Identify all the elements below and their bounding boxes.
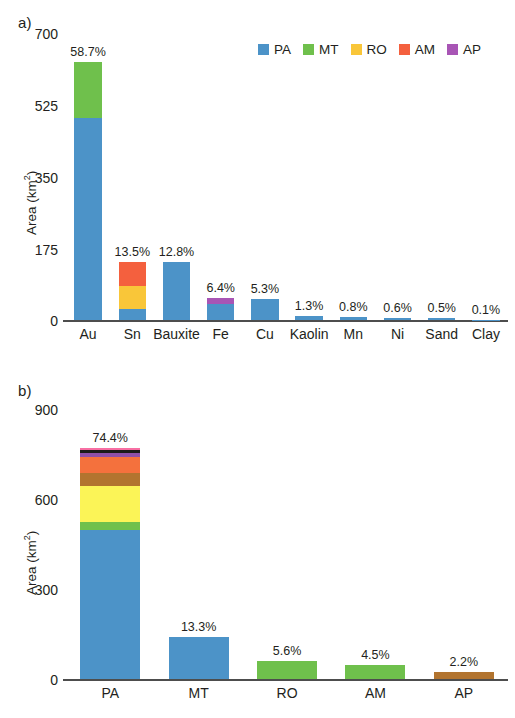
bar-segment-sn-am[interactable]: [119, 262, 146, 285]
bar-slot-fe[interactable]: 6.4%Fe: [199, 34, 243, 320]
x-axis-line-a: [66, 320, 508, 322]
bar-group-b: 74.4%PA13.3%MT5.6%RO4.5%AM2.2%AP: [66, 410, 508, 679]
x-axis-label-sand: Sand: [425, 326, 458, 342]
bar-group-a: 58.7%Au13.5%Sn12.8%Bauxite6.4%Fe5.3%Cu1.…: [66, 34, 508, 320]
bar-value-label-sn: 13.5%: [115, 245, 150, 259]
bar-value-label-bauxite: 12.8%: [159, 245, 194, 259]
bar-value-label-clay: 0.1%: [472, 303, 501, 317]
y-tick-label-a-350: 350: [35, 170, 58, 186]
y-axis-a: 700 525 350 175 0: [0, 0, 58, 360]
legend-item-ap[interactable]: AP: [447, 42, 481, 57]
bar-au[interactable]: [74, 62, 101, 320]
bar-segment-ro-sn[interactable]: [257, 661, 317, 679]
bar-sn[interactable]: [119, 262, 146, 320]
y-axis-b: 900 600 300 0: [0, 370, 58, 718]
bar-segment-pa-bauxite[interactable]: [80, 486, 140, 522]
x-axis-label-ro: RO: [277, 685, 298, 701]
bar-segment-pa-sn[interactable]: [80, 522, 140, 530]
bar-slot-mt[interactable]: 13.3%MT: [154, 410, 242, 679]
chart-panel-b: b) Area (km2) 900 600 300 0 74.4%PA13.3%…: [0, 370, 515, 718]
bar-sand[interactable]: [428, 318, 455, 320]
bar-segment-bauxite-pa[interactable]: [163, 262, 190, 320]
legend-a-row: PA MT RO AM AP: [258, 42, 493, 57]
x-axis-label-clay: Clay: [472, 326, 500, 342]
bar-cu[interactable]: [251, 299, 278, 320]
bar-segment-au-mt[interactable]: [74, 62, 101, 118]
bar-value-label-am: 4.5%: [361, 648, 390, 662]
x-axis-label-sn: Sn: [124, 326, 141, 342]
bar-segment-pa-au[interactable]: [80, 530, 140, 679]
bar-slot-ap[interactable]: 2.2%AP: [420, 410, 508, 679]
bar-value-label-ro: 5.6%: [273, 644, 302, 658]
bar-pa[interactable]: [80, 448, 140, 679]
bar-slot-sn[interactable]: 13.5%Sn: [110, 34, 154, 320]
bar-segment-cu-pa[interactable]: [251, 299, 278, 320]
bar-slot-bauxite[interactable]: 12.8%Bauxite: [154, 34, 198, 320]
legend-label-pa: PA: [274, 42, 291, 57]
bar-bauxite[interactable]: [163, 262, 190, 320]
bar-segment-ni-pa[interactable]: [384, 318, 411, 320]
bar-value-label-cu: 5.3%: [251, 282, 280, 296]
bar-ni[interactable]: [384, 318, 411, 320]
bar-slot-ni[interactable]: 0.6%Ni: [375, 34, 419, 320]
y-tick-label-b-300: 300: [35, 582, 58, 598]
bar-value-label-ap: 2.2%: [450, 655, 479, 669]
bar-segment-fe-pa[interactable]: [207, 304, 234, 320]
bar-segment-ap-fe[interactable]: [434, 672, 494, 679]
bar-segment-am-sn[interactable]: [345, 665, 405, 679]
x-axis-label-cu: Cu: [256, 326, 274, 342]
y-tick-label-b-900: 900: [35, 402, 58, 418]
bar-slot-ro[interactable]: 5.6%RO: [243, 410, 331, 679]
bar-slot-am[interactable]: 4.5%AM: [331, 410, 419, 679]
bar-segment-pa-cu[interactable]: [80, 457, 140, 473]
legend-label-ap: AP: [463, 42, 481, 57]
bar-value-label-pa: 74.4%: [92, 431, 127, 445]
bar-slot-au[interactable]: 58.7%Au: [66, 34, 110, 320]
bar-slot-kaolin[interactable]: 1.3%Kaolin: [287, 34, 331, 320]
bar-mn[interactable]: [340, 317, 367, 320]
bar-segment-mn-pa[interactable]: [340, 317, 367, 320]
bar-kaolin[interactable]: [295, 316, 322, 320]
x-axis-label-fe: Fe: [213, 326, 229, 342]
bar-segment-mt-au[interactable]: [169, 637, 229, 679]
x-axis-label-kaolin: Kaolin: [290, 326, 329, 342]
bar-slot-clay[interactable]: 0.1%Clay: [464, 34, 508, 320]
y-tick-label-b-0: 0: [50, 672, 58, 688]
bar-segment-kaolin-pa[interactable]: [295, 316, 322, 320]
bar-value-label-fe: 6.4%: [206, 281, 235, 295]
legend-label-am: AM: [415, 42, 435, 57]
bar-am[interactable]: [345, 665, 405, 679]
x-axis-label-ni: Ni: [391, 326, 404, 342]
x-axis-label-pa: PA: [101, 685, 119, 701]
bar-ap[interactable]: [434, 672, 494, 679]
y-tick-label-a-525: 525: [35, 98, 58, 114]
legend-swatch-ap-icon: [447, 44, 458, 55]
bar-value-label-mt: 13.3%: [181, 620, 216, 634]
bar-value-label-kaolin: 1.3%: [295, 299, 324, 313]
chart-panel-a: a) Area (km2) 700 525 350 175 0 58.7%Au1…: [0, 0, 515, 360]
bar-slot-sand[interactable]: 0.5%Sand: [420, 34, 464, 320]
bar-slot-pa[interactable]: 74.4%PA: [66, 410, 154, 679]
bar-segment-sn-ro[interactable]: [119, 286, 146, 309]
x-axis-label-mt: MT: [189, 685, 209, 701]
x-axis-line-b: [66, 679, 508, 681]
bar-slot-mn[interactable]: 0.8%Mn: [331, 34, 375, 320]
bar-segment-fe-ap[interactable]: [207, 298, 234, 305]
legend-label-ro: RO: [367, 42, 387, 57]
bar-segment-au-pa[interactable]: [74, 118, 101, 320]
y-tick-label-a-700: 700: [35, 26, 58, 42]
bar-segment-pa-fe[interactable]: [80, 473, 140, 487]
legend-item-pa[interactable]: PA: [258, 42, 291, 57]
bar-segment-sn-pa[interactable]: [119, 309, 146, 320]
bar-fe[interactable]: [207, 298, 234, 320]
legend-item-am[interactable]: AM: [399, 42, 435, 57]
legend-item-ro[interactable]: RO: [351, 42, 387, 57]
bar-slot-cu[interactable]: 5.3%Cu: [243, 34, 287, 320]
bar-mt[interactable]: [169, 637, 229, 679]
bar-value-label-sand: 0.5%: [427, 301, 456, 315]
bar-segment-sand-pa[interactable]: [428, 318, 455, 320]
y-tick-label-a-175: 175: [35, 242, 58, 258]
legend-label-mt: MT: [319, 42, 339, 57]
bar-ro[interactable]: [257, 661, 317, 679]
legend-item-mt[interactable]: MT: [303, 42, 339, 57]
